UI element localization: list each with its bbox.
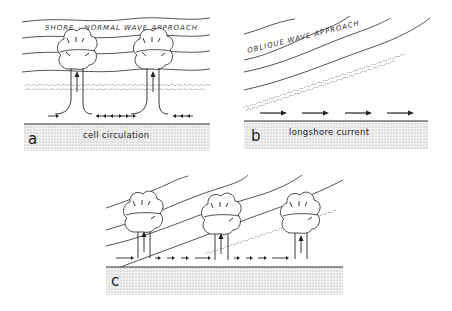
nearshore-circulation-diagram: SHORE - NORMAL WAVE APPROACH [0, 0, 452, 311]
panel-a-caption: cell circulation [83, 130, 149, 140]
wave-crest [22, 69, 210, 72]
wave-crest [22, 51, 210, 54]
panel-b: OBLIQUE WAVE APPROACH b longshore curren… [243, 16, 430, 149]
longshore-current-arrows [260, 111, 414, 116]
panel-b-letter: b [251, 127, 261, 145]
wave-crest [244, 19, 295, 34]
panel-b-caption: longshore current [289, 127, 370, 137]
wave-crest [22, 35, 210, 38]
rip-current-head [201, 193, 241, 260]
wave-crest [22, 18, 210, 22]
panel-a-letter: a [28, 130, 37, 148]
panel-c: c [106, 175, 343, 295]
panel-c-letter: c [111, 272, 119, 290]
beach [106, 267, 343, 295]
feeder-current-arrows [48, 100, 193, 118]
breaker-zone [25, 85, 211, 87]
rip-current-head [123, 191, 163, 258]
rip-current-head [133, 28, 173, 100]
rip-current-head [280, 192, 320, 259]
panel-a: SHORE - NORMAL WAVE APPROACH [22, 18, 211, 151]
breaker-zone [243, 54, 405, 108]
